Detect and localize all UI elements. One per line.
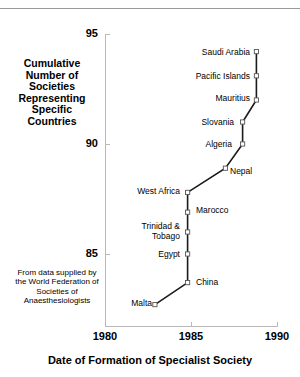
data-point-marker xyxy=(186,230,190,234)
x-tick-label-1985: 1985 xyxy=(166,331,216,342)
point-label-malta: Malta xyxy=(112,299,152,309)
data-point-marker xyxy=(153,303,157,307)
y-tick-label-90: 90 xyxy=(58,138,98,149)
data-point-marker xyxy=(223,166,227,170)
data-point-marker xyxy=(186,281,190,285)
x-tick-label-1980: 1980 xyxy=(80,331,130,342)
y-axis-title: Cumulative Number of Societies Represent… xyxy=(6,58,98,128)
data-point-marker xyxy=(254,74,258,78)
point-label-egypt: Egypt xyxy=(118,250,180,260)
y-tick-90 xyxy=(105,144,110,145)
data-point-marker xyxy=(254,98,258,102)
data-point-marker xyxy=(186,190,190,194)
y-axis-line xyxy=(105,34,106,326)
data-point-marker xyxy=(186,210,190,214)
series-markers xyxy=(153,50,259,307)
point-label-pacific-islands: Pacific Islands xyxy=(176,72,250,82)
point-label-china: China xyxy=(196,278,256,288)
point-label-nepal: Nepal xyxy=(230,167,280,177)
point-label-algeria: Algeria xyxy=(168,140,232,150)
data-point-marker xyxy=(241,120,245,124)
point-label-trinidad-tobago: Trinidad & Tobago xyxy=(110,222,180,241)
point-label-slovania: Slovania xyxy=(168,118,234,128)
y-tick-label-85: 85 xyxy=(58,248,98,259)
point-label-marocco: Marocco xyxy=(196,206,256,216)
chart-footnote: From data supplied by the World Federati… xyxy=(12,268,102,306)
chart-figure: 95 90 85 1980 1985 1990 Malta China Egyp… xyxy=(0,0,300,377)
data-point-marker xyxy=(241,142,245,146)
x-tick-1990 xyxy=(277,322,278,327)
y-tick-label-95: 95 xyxy=(58,28,98,39)
point-label-west-africa: West Africa xyxy=(110,187,180,197)
series-polyline xyxy=(155,52,257,305)
point-label-mauritius: Mauritius xyxy=(180,94,250,104)
data-point-marker xyxy=(186,252,190,256)
y-tick-95 xyxy=(105,34,110,35)
x-tick-1980 xyxy=(105,322,106,327)
x-tick-1985 xyxy=(191,322,192,327)
x-tick-label-1990: 1990 xyxy=(252,331,300,342)
x-axis-title: Date of Formation of Specialist Society xyxy=(0,354,300,366)
y-tick-85 xyxy=(105,254,110,255)
data-point-marker xyxy=(254,50,258,54)
point-label-saudi-arabia: Saudi Arabia xyxy=(180,48,250,58)
